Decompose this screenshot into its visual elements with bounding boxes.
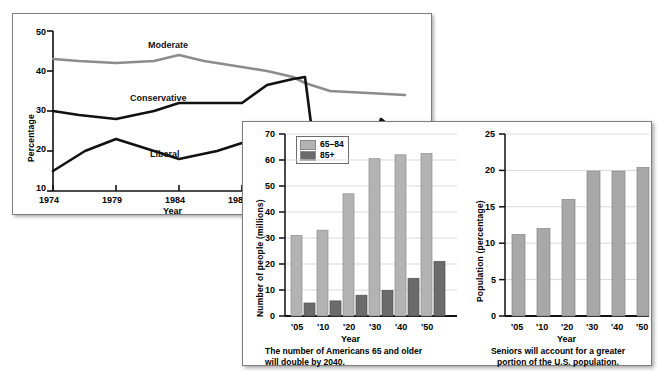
figure-stage: Percentage 50 40 30 20 10 1974 1979 1984…: [0, 0, 662, 371]
chart-senior-percentage: Population (percentage) 25 20 15 10 5 0 …: [461, 122, 651, 365]
panel-senior-population-bar-charts: Number of people (millions) 70 60 50 40 …: [242, 121, 652, 366]
pct-chart-plot-area: [461, 122, 651, 365]
pct-bars-seniors: [512, 168, 649, 317]
chart-senior-count: Number of people (millions) 70 60 50 40 …: [243, 122, 461, 365]
pct-chart-gridlines: [505, 134, 649, 280]
line-series-moderate: [53, 55, 405, 95]
count-chart-plot-area: [243, 122, 461, 365]
